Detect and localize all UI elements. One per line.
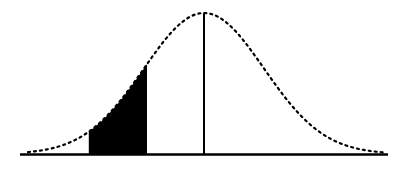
bell-curve-plot: [0, 0, 398, 178]
bell-curve-dotted: [28, 13, 384, 152]
normal-distribution-figure: [0, 0, 398, 178]
